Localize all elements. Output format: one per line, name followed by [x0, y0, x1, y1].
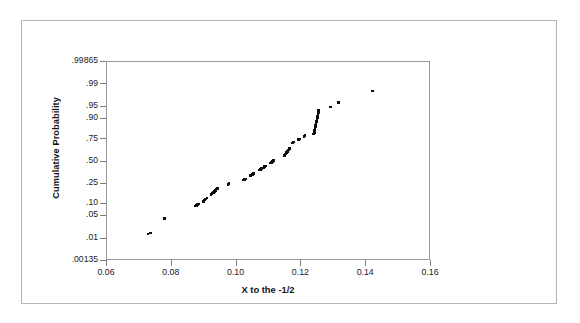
data-point [317, 112, 320, 115]
y-axis-tick-label: .99 [86, 79, 98, 88]
y-axis-tick [100, 118, 106, 119]
x-axis-tick-label: 0.16 [421, 268, 438, 277]
data-point [206, 197, 209, 200]
data-points-layer [107, 62, 429, 259]
y-axis-tick-label: .50 [86, 156, 98, 165]
x-axis-tick [106, 260, 107, 266]
data-point [163, 217, 166, 220]
data-point [337, 101, 340, 104]
probability-plot-figure: Cumulative Probability .00135.01.05.10.2… [0, 0, 580, 323]
data-point [292, 141, 295, 144]
y-axis-tick [100, 183, 106, 184]
data-point [317, 109, 320, 112]
y-axis-tick [100, 203, 106, 204]
x-axis-title: X to the -1/2 [106, 285, 430, 294]
data-point [288, 147, 291, 150]
x-axis-tick [171, 260, 172, 266]
x-axis-tick [300, 260, 301, 266]
data-point [371, 90, 374, 93]
y-axis-tick-label: .75 [86, 134, 98, 143]
data-point [149, 232, 152, 235]
y-axis-tick [100, 61, 106, 62]
x-axis-tick [365, 260, 366, 266]
data-point [228, 182, 231, 185]
x-axis-tick-label: 0.06 [97, 268, 114, 277]
y-axis-tick-label: .25 [86, 178, 98, 187]
y-axis-tick-label: .90 [86, 113, 98, 122]
y-axis-tick-label: .00135 [72, 255, 98, 264]
data-point [298, 138, 301, 141]
x-axis-tick-label: 0.10 [227, 268, 244, 277]
x-axis-tick-label: 0.14 [357, 268, 374, 277]
y-axis-tick-label: .95 [86, 101, 98, 110]
data-point [304, 134, 307, 137]
y-axis-tick [100, 161, 106, 162]
y-axis-tick [100, 215, 106, 216]
x-axis-tick [236, 260, 237, 266]
y-axis-tick [100, 106, 106, 107]
y-axis-tick-labels: .00135.01.05.10.25.50.75.90.95.99.99865 [0, 0, 98, 323]
x-axis-tick-label: 0.08 [162, 268, 179, 277]
data-point [252, 172, 255, 175]
x-axis-tick-label: 0.12 [292, 268, 309, 277]
y-axis-tick [100, 138, 106, 139]
y-axis-tick-label: .99865 [72, 56, 98, 65]
data-point [245, 178, 248, 181]
data-point [264, 165, 267, 168]
y-axis-tick-label: .01 [86, 233, 98, 242]
y-axis-tick-label: .10 [86, 198, 98, 207]
data-point [216, 187, 219, 190]
y-axis-tick-label: .05 [86, 210, 98, 219]
data-point [329, 106, 332, 109]
data-point [272, 159, 275, 162]
data-point [197, 203, 200, 206]
y-axis-tick [100, 83, 106, 84]
y-axis-tick [100, 238, 106, 239]
x-axis-tick [430, 260, 431, 266]
plot-area [106, 61, 430, 260]
